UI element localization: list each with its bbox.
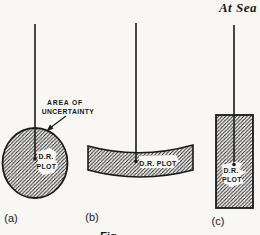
uncertainty-rectangle [216,115,253,208]
annotation-arrow-line [50,116,66,128]
area-of-uncertainty-label-line1: AREA OF [47,99,83,106]
partial-figure-caption: Fig. [100,230,120,235]
dr-plot-label-c-line2: PLOT [222,176,242,183]
dr-dot-b [134,160,138,164]
area-of-uncertainty-label-line2: UNCERTAINTY [42,108,95,115]
dr-dot-a [33,157,37,161]
uncertainty-circle [3,128,68,198]
dr-plot-label-a-line1: D.R. [38,153,53,160]
dr-dot-c [232,163,236,167]
dr-plot-label-a-line2: PLOT [37,163,57,170]
dr-plot-label-c-line1: D.R. [223,167,238,174]
book-page: At Sea AREA OF UNCERTAINTY D.R. [0,0,260,235]
panel-label-c: (c) [212,215,225,227]
panel-label-a: (a) [4,212,17,224]
dr-plot-label-b: D.R. PLOT [139,160,177,167]
uncertainty-diagram: AREA OF UNCERTAINTY D.R. PLOT D.R. PLOT … [0,0,260,235]
panel-label-b: (b) [85,211,98,223]
